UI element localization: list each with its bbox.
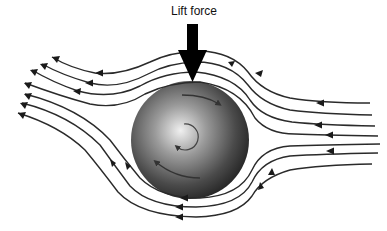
spinning-ball <box>131 81 249 199</box>
magnus-effect-diagram <box>0 0 387 231</box>
